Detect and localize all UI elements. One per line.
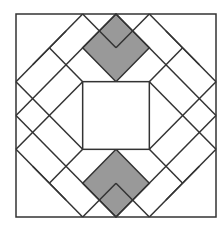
center-square <box>83 82 150 150</box>
quilt-diagram <box>0 0 223 226</box>
